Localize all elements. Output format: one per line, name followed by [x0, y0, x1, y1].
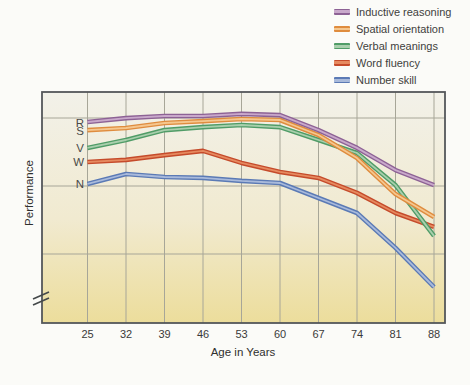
x-tick-label: 39	[152, 328, 178, 340]
legend-swatch-line-icon	[334, 77, 350, 83]
series-letter-V: V	[70, 141, 84, 155]
legend-label: Number skill	[356, 74, 417, 86]
legend-label: Inductive reasoning	[356, 6, 451, 18]
x-axis-title: Age in Years	[211, 346, 276, 358]
legend-label: Verbal meanings	[356, 40, 438, 52]
series-letter-W: W	[70, 155, 84, 169]
legend-item: Number skill	[334, 71, 451, 88]
figure-line-chart: Inductive reasoning Spatial orientation …	[0, 0, 470, 385]
series-letter-S: S	[70, 124, 84, 138]
x-tick-label: 46	[190, 328, 216, 340]
legend-item: Verbal meanings	[334, 37, 451, 54]
chart-legend: Inductive reasoning Spatial orientation …	[334, 3, 451, 88]
legend-item: Word fluency	[334, 54, 451, 71]
x-tick-label: 32	[113, 328, 139, 340]
legend-swatch-line-icon	[334, 60, 350, 66]
x-tick-label: 81	[383, 328, 409, 340]
legend-label: Spatial orientation	[356, 23, 444, 35]
legend-item: Inductive reasoning	[334, 3, 451, 20]
series-letter-N: N	[70, 177, 84, 191]
legend-label: Word fluency	[356, 57, 420, 69]
legend-swatch-line-icon	[334, 43, 350, 49]
y-axis-title: Performance	[23, 160, 35, 226]
x-tick-label: 25	[75, 328, 101, 340]
x-tick-label: 67	[306, 328, 332, 340]
legend-item: Spatial orientation	[334, 20, 451, 37]
legend-swatch-line-icon	[334, 26, 350, 32]
legend-swatch-line-icon	[334, 9, 350, 15]
x-tick-label: 74	[344, 328, 370, 340]
x-tick-label: 88	[421, 328, 447, 340]
x-tick-label: 60	[267, 328, 293, 340]
x-tick-label: 53	[229, 328, 255, 340]
